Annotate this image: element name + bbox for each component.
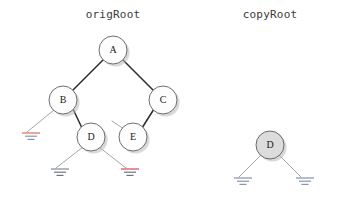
tree-edge-D-null-right bbox=[99, 147, 126, 168]
nodes-layer: ABCDED bbox=[49, 36, 287, 162]
tree-edge-B-null-left bbox=[27, 110, 54, 132]
tree-edge-Dcopy-null-left bbox=[239, 155, 261, 177]
null-ground-symbol bbox=[121, 169, 139, 175]
node-label: B bbox=[60, 94, 67, 105]
tree-edge-C-E bbox=[142, 109, 154, 128]
null-ground-symbol bbox=[296, 178, 314, 184]
tree-node-E[interactable]: E bbox=[119, 123, 150, 154]
null-ground-symbol bbox=[22, 133, 40, 139]
node-label: E bbox=[130, 131, 136, 142]
diagram-canvas: ABCDED origRoot copyRoot bbox=[0, 0, 340, 208]
binary-tree-diagram: ABCDED origRoot copyRoot bbox=[0, 0, 340, 208]
node-label: A bbox=[109, 44, 117, 55]
null-ground-symbol bbox=[51, 169, 69, 175]
tree-node-A[interactable]: A bbox=[99, 36, 130, 67]
tree-edge-Dcopy-null-right bbox=[279, 155, 301, 177]
node-label: C bbox=[160, 94, 167, 105]
tree-edge-A-C bbox=[123, 60, 154, 91]
node-label: D bbox=[266, 139, 273, 150]
tree-edge-D-null-left bbox=[56, 147, 83, 168]
copy-root-label: copyRoot bbox=[243, 8, 298, 21]
tree-node-D[interactable]: D bbox=[77, 123, 108, 154]
tree-node-B[interactable]: B bbox=[49, 86, 80, 117]
node-label: D bbox=[87, 131, 94, 142]
null-ground-symbol bbox=[234, 178, 252, 184]
tree-edge-A-B bbox=[72, 60, 103, 91]
tree-node-C[interactable]: C bbox=[149, 86, 180, 117]
edges-layer bbox=[27, 60, 301, 177]
tree-node-Dcopy[interactable]: D bbox=[256, 131, 287, 162]
orig-root-label: origRoot bbox=[86, 8, 141, 21]
